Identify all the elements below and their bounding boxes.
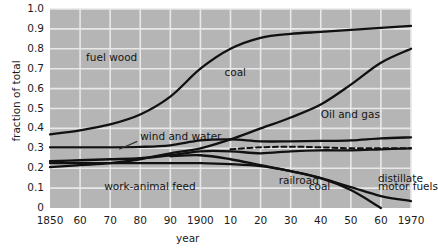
area-label: motor fuels: [378, 180, 438, 192]
x-tick-label: 1970: [394, 214, 428, 226]
x-tick-label: 40: [311, 214, 331, 226]
y-tick-label: 0: [18, 201, 44, 213]
y-tick-label: 1.0: [18, 2, 44, 14]
y-tick-label: 0.6: [18, 82, 44, 94]
area-label: coal: [224, 66, 246, 78]
x-tick-label: 90: [160, 214, 180, 226]
area-label: coal: [309, 180, 331, 192]
y-tick-label: 0.4: [18, 121, 44, 133]
y-tick-label: 0.9: [18, 22, 44, 34]
x-axis-label: year: [176, 232, 199, 244]
y-tick-label: 0.5: [18, 102, 44, 114]
x-tick-label: 1900: [183, 214, 217, 226]
y-tick-label: 0.3: [18, 141, 44, 153]
x-tick-label: 60: [371, 214, 391, 226]
y-tick-label: 0.1: [18, 181, 44, 193]
x-tick-label: 70: [100, 214, 120, 226]
x-tick-label: 60: [70, 214, 90, 226]
x-tick-label: 80: [130, 214, 150, 226]
x-tick-label: 20: [251, 214, 271, 226]
area-label: work-animal feed: [104, 180, 195, 192]
x-tick-label: 30: [281, 214, 301, 226]
area-label: wind and water: [140, 130, 221, 142]
area-label: Oil and gas: [321, 108, 380, 120]
y-tick-label: 0.7: [18, 62, 44, 74]
area-label: fuel wood: [86, 51, 137, 63]
x-tick-label: 1850: [33, 214, 67, 226]
x-tick-label: 50: [341, 214, 361, 226]
y-tick-label: 0.8: [18, 42, 44, 54]
x-tick-label: 10: [221, 214, 241, 226]
y-tick-label: 0.2: [18, 161, 44, 173]
